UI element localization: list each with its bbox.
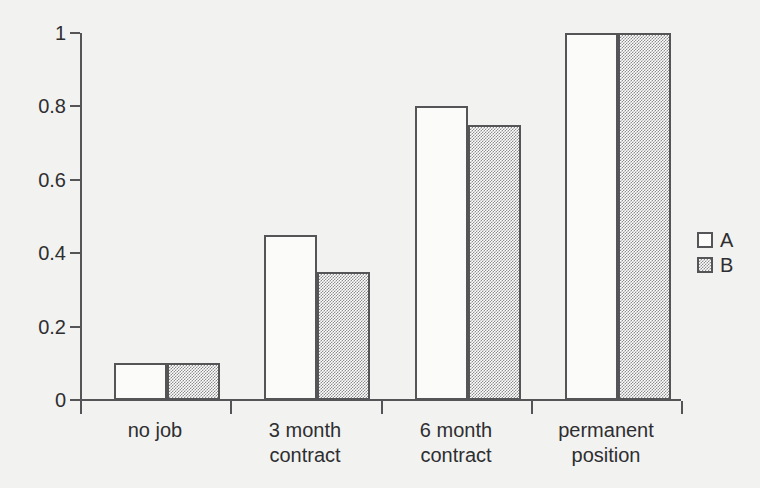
y-axis-tick <box>70 326 80 328</box>
y-axis-tick-label-text: 0.2 <box>20 317 66 337</box>
y-axis-tick <box>70 179 80 181</box>
x-axis-category-label: 6 monthcontract <box>381 418 531 468</box>
y-axis-tick-label-text: 1 <box>20 23 66 43</box>
x-axis-category-label-line: no job <box>80 418 230 443</box>
bar-permanent-position-series-A <box>565 33 618 400</box>
y-axis-tick-label-text: 0.8 <box>20 96 66 116</box>
y-axis-tick-label-text: 0.6 <box>20 170 66 190</box>
x-axis-category-label-line: position <box>531 443 681 468</box>
x-axis-tick <box>681 401 683 414</box>
bar-no-job-series-B <box>167 363 220 400</box>
bar-3-month-contract-series-A <box>264 235 317 400</box>
x-axis-category-label-line: 6 month <box>381 418 531 443</box>
x-axis-category-label-line: contract <box>381 443 531 468</box>
y-axis-line <box>80 33 82 401</box>
bar-3-month-contract-series-B <box>317 272 370 400</box>
x-axis-category-label-line: contract <box>230 443 380 468</box>
bar-6-month-contract-series-B <box>468 125 521 400</box>
legend: AB <box>697 229 733 279</box>
y-axis-tick <box>70 32 80 34</box>
x-axis-category-label-line: 3 month <box>230 418 380 443</box>
bar-permanent-position-series-B <box>618 33 671 400</box>
y-axis-tick <box>70 105 80 107</box>
y-axis-tick-label: 0.6 <box>10 170 66 190</box>
legend-swatch-B <box>697 257 713 273</box>
x-axis-tick <box>381 401 383 414</box>
x-axis-tick <box>230 401 232 414</box>
y-axis-tick-label: 0.4 <box>10 243 66 263</box>
bar-6-month-contract-series-A <box>415 106 468 400</box>
x-axis-category-label: no job <box>80 418 230 443</box>
y-axis-tick <box>70 252 80 254</box>
legend-label-A: A <box>720 230 733 250</box>
legend-label-B: B <box>720 255 733 275</box>
y-axis-tick-label: 1 <box>10 23 66 43</box>
x-axis-tick <box>80 401 82 414</box>
y-axis-tick-label: 0 <box>10 390 66 410</box>
y-axis-tick-label-text: 0.4 <box>20 243 66 263</box>
x-axis-category-label: permanentposition <box>531 418 681 468</box>
y-axis-tick-label: 0.8 <box>10 96 66 116</box>
legend-item-A: A <box>697 229 733 251</box>
x-axis-category-label: 3 monthcontract <box>230 418 380 468</box>
y-axis-tick <box>70 399 80 401</box>
x-axis-category-label-line: permanent <box>531 418 681 443</box>
chart-figure: 00.20.40.60.81 no job3 monthcontract6 mo… <box>0 0 760 488</box>
legend-swatch-A <box>697 232 713 248</box>
legend-item-B: B <box>697 254 733 276</box>
x-axis-tick <box>531 401 533 414</box>
y-axis-tick-label: 0.2 <box>10 317 66 337</box>
bar-no-job-series-A <box>114 363 167 400</box>
y-axis-tick-label-text: 0 <box>20 390 66 410</box>
